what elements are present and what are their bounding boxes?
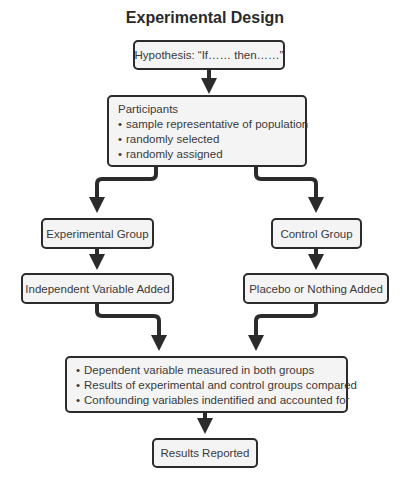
- hypothesis-box: Hypothesis: “If…… then……”: [133, 40, 285, 70]
- control-group-label: Control Group: [280, 228, 352, 240]
- analysis-item: Results of experimental and control grou…: [76, 378, 337, 393]
- analysis-box: Dependent variable measured in both grou…: [65, 356, 348, 413]
- results-label: Results Reported: [161, 447, 250, 459]
- analysis-list: Dependent variable measured in both grou…: [76, 363, 337, 408]
- placebo-box: Placebo or Nothing Added: [243, 273, 389, 304]
- participants-list: sample representative of population rand…: [118, 117, 296, 162]
- participants-box: Participants sample representative of po…: [107, 95, 307, 167]
- independent-variable-label: Independent Variable Added: [25, 283, 169, 295]
- hypothesis-label: Hypothesis: “If…… then……”: [135, 49, 284, 61]
- participants-heading: Participants: [118, 102, 296, 117]
- participants-item: randomly assigned: [118, 147, 296, 162]
- analysis-item: Dependent variable measured in both grou…: [76, 363, 337, 378]
- results-box: Results Reported: [152, 438, 258, 468]
- participants-item: sample representative of population: [118, 117, 296, 132]
- diagram-title: Experimental Design: [0, 9, 406, 27]
- analysis-item: Confounding variables indentified and ac…: [76, 393, 337, 408]
- experimental-group-box: Experimental Group: [41, 218, 154, 249]
- control-group-box: Control Group: [271, 218, 362, 249]
- participants-item: randomly selected: [118, 132, 296, 147]
- experimental-group-label: Experimental Group: [46, 228, 148, 240]
- independent-variable-box: Independent Variable Added: [21, 273, 174, 304]
- placebo-label: Placebo or Nothing Added: [249, 283, 383, 295]
